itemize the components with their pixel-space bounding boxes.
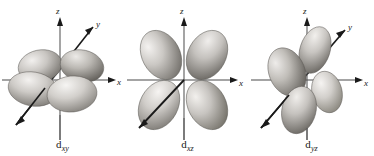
x-axis-arrowhead (355, 77, 363, 83)
orbital-subscript: yz (311, 144, 318, 153)
lobe-upper-right (178, 23, 236, 87)
y-axis-arrowhead (85, 27, 93, 35)
x-axis-label: x (238, 78, 243, 88)
orbital-diagram-d-xy: y x z (0, 0, 125, 140)
z-axis-label: z (302, 6, 307, 16)
x-axis-label: x (363, 78, 368, 88)
y-axis-arrowhead (336, 30, 345, 38)
z-axis-arrowhead (57, 17, 63, 26)
lobe-upper-left (132, 23, 190, 87)
x-axis-label: x (116, 77, 121, 87)
orbital-diagram-d-xz: x z (125, 0, 250, 140)
lobe-lower-right (178, 73, 236, 137)
y-axis-label: y (347, 22, 352, 32)
z-axis-label: z (179, 6, 184, 16)
orbital-label-d-xy: dxy (0, 138, 125, 153)
orbital-diagram-d-yz: y x z (249, 0, 374, 140)
z-axis-arrowhead (304, 17, 310, 26)
orbital-panel-d-xy: y x z dxy (0, 0, 125, 156)
orbital-lobes (261, 23, 347, 138)
d-orbital-figure: y x z dxy (0, 0, 374, 156)
orbital-subscript: xy (62, 144, 69, 153)
orbital-label-d-yz: dyz (249, 138, 374, 153)
orbital-panel-d-yz: y x z dyz (249, 0, 374, 156)
orbital-subscript: xz (187, 144, 194, 153)
x-axis-arrowhead (230, 77, 238, 83)
z-axis-arrowhead (181, 17, 187, 26)
z-axis-label: z (55, 6, 60, 16)
x-axis-arrowhead (108, 77, 116, 83)
orbital-label-d-xz: dxz (125, 138, 250, 153)
y-axis-label: y (95, 19, 100, 29)
orbital-panel-d-xz: x z dxz (125, 0, 250, 156)
